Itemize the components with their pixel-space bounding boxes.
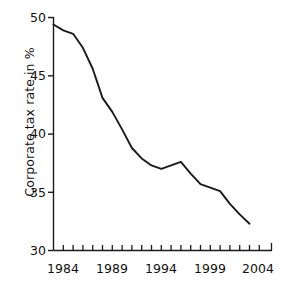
y-axis-ticks [48, 18, 54, 251]
y-tick-label-40: 40 [22, 126, 46, 141]
y-tick-label-45: 45 [22, 68, 46, 83]
data-series-line [54, 24, 250, 223]
x-axis-ticks [63, 243, 271, 251]
y-tick-label-35: 35 [22, 185, 46, 200]
x-tick-label-1984: 1984 [36, 261, 90, 276]
x-tick-label-1989: 1989 [85, 261, 139, 276]
line-chart: Corporate tax rate in % 50 45 40 35 30 1… [0, 0, 282, 293]
x-tick-label-1999: 1999 [183, 261, 237, 276]
y-tick-label-50: 50 [22, 10, 46, 25]
y-tick-label-30: 30 [22, 243, 46, 258]
x-tick-label-2004: 2004 [231, 261, 282, 276]
x-tick-label-1994: 1994 [134, 261, 188, 276]
